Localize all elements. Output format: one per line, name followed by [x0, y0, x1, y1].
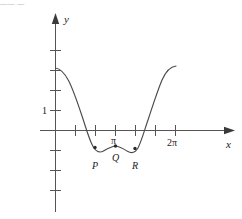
- point-marker-P: [93, 146, 96, 149]
- y-axis-arrowhead: [52, 13, 59, 24]
- point-label-P: P: [92, 160, 98, 171]
- graph-canvas: [0, 0, 242, 219]
- point-marker-R: [133, 147, 136, 150]
- x-axis-label: x: [226, 138, 231, 150]
- x-tick-label-two-pi: 2π: [167, 137, 177, 148]
- point-label-R: R: [132, 160, 138, 171]
- x-tick-label-pi: π: [111, 135, 116, 146]
- y-axis-label: y: [64, 13, 69, 25]
- point-label-Q: Q: [112, 152, 119, 163]
- x-axis-arrowhead: [224, 127, 235, 134]
- y-tick-label-one: 1: [42, 105, 47, 116]
- figure-container: —— —: [0, 0, 242, 219]
